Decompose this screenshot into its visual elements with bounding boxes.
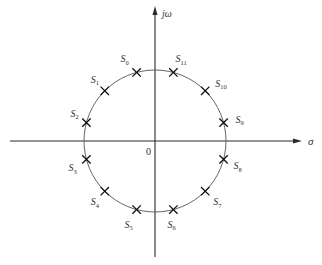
real-axis-label: σ	[308, 135, 314, 147]
pole-label: S1	[91, 74, 99, 87]
pole-1: S1	[91, 74, 109, 95]
pole-5: S5	[125, 205, 141, 231]
s-plane-diagram: jω σ 0 S0S1S2S3S4S5S6S7S8S9S10S11	[0, 0, 322, 265]
real-axis-arrow-icon	[293, 139, 302, 144]
pole-4: S4	[91, 187, 109, 209]
pole-label: S9	[236, 114, 244, 127]
pole-label: S0	[121, 53, 129, 66]
pole-2: S2	[70, 108, 90, 127]
pole-8: S8	[219, 155, 241, 173]
imaginary-axis-label: jω	[160, 8, 172, 19]
pole-label: S8	[234, 160, 242, 173]
pole-label: S3	[68, 162, 76, 175]
pole-10: S10	[201, 78, 227, 95]
pole-7: S7	[201, 187, 222, 209]
pole-label: S2	[70, 108, 78, 121]
imaginary-axis-arrow-icon	[153, 6, 158, 15]
poles-group: S0S1S2S3S4S5S6S7S8S9S10S11	[68, 53, 243, 231]
pole-label: S10	[215, 78, 227, 91]
pole-label: S5	[125, 219, 133, 232]
pole-11: S11	[169, 53, 186, 76]
pole-0: S0	[121, 53, 141, 76]
real-axis: σ	[10, 135, 314, 147]
pole-3: S3	[68, 155, 90, 175]
pole-label: S6	[167, 219, 176, 232]
pole-label: S7	[213, 196, 222, 209]
pole-label: S4	[91, 196, 100, 209]
origin-label: 0	[146, 146, 151, 157]
pole-label: S11	[175, 53, 186, 66]
